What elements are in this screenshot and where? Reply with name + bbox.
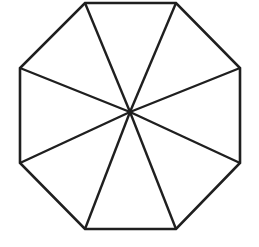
figure-canvas	[0, 0, 259, 247]
octagon-figure-svg	[0, 0, 259, 247]
octagon-outline-path	[20, 3, 240, 229]
